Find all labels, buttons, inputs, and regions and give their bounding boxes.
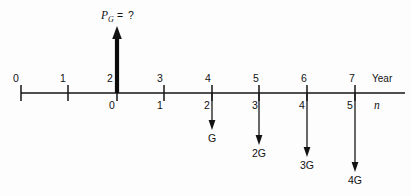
- year-label-6: 6: [301, 72, 307, 84]
- outflow-arrow-head-g: [209, 120, 216, 130]
- year-label-2: 2: [107, 72, 113, 84]
- period-label-0: 0: [109, 99, 115, 111]
- year-label-5: 5: [253, 72, 259, 84]
- pg-equals-sign: =: [117, 9, 123, 21]
- pg-value: ?: [128, 9, 134, 21]
- pg-subscript: G: [108, 15, 114, 24]
- year-label-3: 3: [157, 72, 163, 84]
- outflow-arrow-head-2g: [256, 135, 263, 145]
- year-label-0: 0: [13, 72, 19, 84]
- outflow-arrow-head-4g: [352, 162, 359, 172]
- cash-flow-diagram: 0 1 2 3 4 5 6 7 Year 0 1 2 3 4 5 n P G =…: [0, 0, 411, 196]
- outflow-label-3g: 3G: [300, 159, 314, 171]
- outflow-label-g: G: [208, 132, 216, 144]
- axis-label-year: Year: [372, 73, 393, 84]
- period-label-3: 3: [252, 99, 258, 111]
- pg-symbol: P: [100, 9, 108, 21]
- period-label-2: 2: [204, 99, 210, 111]
- outflow-arrow-head-3g: [304, 147, 311, 157]
- year-label-1: 1: [60, 72, 66, 84]
- cash-flow-svg: 0 1 2 3 4 5 6 7 Year 0 1 2 3 4 5 n P G =…: [0, 0, 411, 196]
- outflow-label-2g: 2G: [252, 147, 266, 159]
- axis-label-n: n: [374, 99, 380, 111]
- period-label-4: 4: [299, 99, 305, 111]
- year-label-4: 4: [205, 72, 211, 84]
- period-label-1: 1: [157, 99, 163, 111]
- inflow-arrow-head-pg: [112, 26, 122, 39]
- period-label-5: 5: [347, 99, 353, 111]
- outflow-label-4g: 4G: [348, 174, 362, 186]
- year-label-7: 7: [349, 72, 355, 84]
